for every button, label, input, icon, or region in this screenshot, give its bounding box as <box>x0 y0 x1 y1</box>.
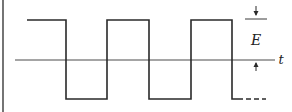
arrow-down-icon <box>254 6 259 16</box>
amplitude-label: E <box>250 32 261 48</box>
arrow-up-icon <box>254 62 259 71</box>
square-wave-diagram: E t <box>0 0 292 112</box>
time-axis-label: t <box>278 52 284 67</box>
